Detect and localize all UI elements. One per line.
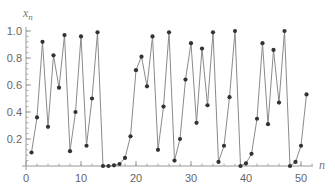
data-point — [200, 46, 204, 50]
data-point — [156, 148, 160, 152]
data-point — [73, 110, 77, 114]
data-point — [293, 160, 297, 164]
data-point — [29, 150, 33, 154]
y-axis-label: xn — [22, 6, 33, 22]
y-tick-label: 1.0 — [7, 25, 22, 37]
data-point — [68, 149, 72, 153]
data-point — [222, 144, 226, 148]
data-point — [123, 156, 127, 160]
data-point — [238, 164, 242, 168]
data-point — [255, 117, 259, 121]
data-point — [233, 29, 237, 33]
data-point — [106, 164, 110, 168]
chart: 0.20.40.60.81.001020304050 xn n — [0, 0, 335, 192]
data-point — [145, 84, 149, 88]
data-point — [101, 164, 105, 168]
series-line — [32, 31, 307, 166]
data-point — [299, 144, 303, 148]
data-point — [189, 41, 193, 45]
data-point — [84, 144, 88, 148]
data-point — [172, 159, 176, 163]
data-point — [277, 100, 281, 104]
data-point — [139, 55, 143, 59]
data-point — [216, 160, 220, 164]
data-point — [194, 121, 198, 125]
data-point — [79, 34, 83, 38]
data-point — [62, 33, 66, 37]
data-point — [249, 152, 253, 156]
x-tick-label: 40 — [240, 172, 252, 184]
x-axis-label: n — [319, 158, 325, 172]
data-point — [205, 103, 209, 107]
data-point — [227, 95, 231, 99]
data-point — [40, 40, 44, 44]
data-point — [117, 162, 121, 166]
data-point — [260, 41, 264, 45]
data-point — [128, 134, 132, 138]
y-tick-label: 0.6 — [7, 79, 22, 91]
data-point — [211, 30, 215, 34]
data-point — [134, 68, 138, 72]
x-tick-label: 50 — [295, 172, 307, 184]
data-point — [288, 164, 292, 168]
data-point — [57, 86, 61, 90]
data-point — [90, 96, 94, 100]
data-point — [95, 30, 99, 34]
data-point — [161, 105, 165, 109]
data-point — [112, 163, 116, 167]
data-point — [304, 92, 308, 96]
data-point — [35, 115, 39, 119]
data-point — [46, 125, 50, 129]
data-point — [51, 53, 55, 57]
y-tick-label: 0.4 — [7, 106, 22, 118]
data-point — [244, 161, 248, 165]
x-tick-label: 30 — [185, 172, 197, 184]
data-point — [178, 137, 182, 141]
x-tick-label: 0 — [23, 172, 29, 184]
y-tick-label: 0.8 — [7, 52, 22, 64]
data-point — [183, 78, 187, 82]
data-point — [150, 34, 154, 38]
data-point — [167, 30, 171, 34]
data-point — [271, 48, 275, 52]
data-point — [282, 29, 286, 33]
x-tick-label: 10 — [75, 172, 87, 184]
x-tick-label: 20 — [130, 172, 142, 184]
y-tick-label: 0.2 — [7, 133, 22, 145]
data-point — [266, 122, 270, 126]
